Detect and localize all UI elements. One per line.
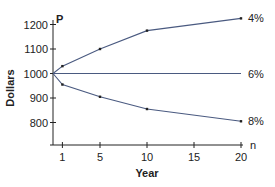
y-tick-label: 900 [30, 92, 48, 104]
series-label: 6% [248, 68, 264, 80]
y-tick-label: 800 [30, 117, 48, 129]
x-tick-label: 20 [235, 151, 247, 163]
data-point [99, 96, 101, 98]
series-line [53, 18, 241, 73]
series-label: 8% [248, 115, 264, 127]
data-point [61, 83, 63, 85]
y-axis-symbol: P [56, 13, 63, 25]
y-axis-title: Dollars [4, 69, 16, 106]
data-point [99, 48, 101, 50]
data-point [240, 120, 242, 122]
data-point [146, 29, 148, 31]
y-tick-label: 1100 [24, 43, 48, 55]
y-axis: 800900100011001200 P Dollars [4, 13, 63, 145]
data-point [240, 17, 242, 19]
y-tick-label: 1000 [24, 68, 48, 80]
data-point [146, 108, 148, 110]
series-lines: 4%6%8% [53, 12, 264, 127]
x-tick-label: 5 [97, 151, 103, 163]
x-tick-label: 15 [188, 151, 200, 163]
chart: 800900100011001200 P Dollars 15101520 n … [0, 0, 275, 187]
series-line [53, 74, 241, 122]
x-axis: 15101520 n Year [50, 139, 256, 179]
x-tick-label: 10 [141, 151, 153, 163]
series-label: 4% [248, 12, 264, 24]
x-tick-label: 1 [59, 151, 65, 163]
x-axis-symbol: n [250, 139, 256, 151]
y-tick-label: 1200 [24, 19, 48, 31]
x-axis-title: Year [135, 167, 159, 179]
data-point [61, 65, 63, 67]
